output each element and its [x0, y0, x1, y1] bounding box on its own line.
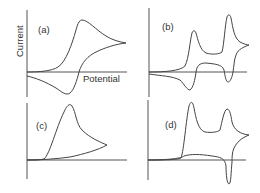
panel-c: (c)	[27, 103, 127, 179]
panel-d-label: (d)	[165, 119, 177, 130]
panel-a-label: (a)	[38, 24, 50, 35]
panel-d-curve	[148, 102, 249, 184]
panel-a: (a) Current Potential	[14, 10, 127, 97]
cyclic-voltammetry-figure: (a) Current Potential (b) (c) (d)	[0, 0, 260, 193]
panel-d: (d)	[148, 100, 249, 184]
panel-b-label: (b)	[162, 21, 174, 32]
y-axis-label: Current	[14, 25, 25, 57]
x-axis-label: Potential	[83, 73, 120, 84]
panel-b: (b)	[149, 8, 249, 97]
panel-c-curve	[27, 105, 107, 160]
panel-c-label: (c)	[36, 120, 47, 131]
